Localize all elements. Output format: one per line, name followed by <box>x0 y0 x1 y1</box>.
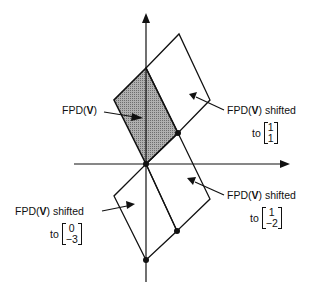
label-bold-v: V <box>252 189 259 201</box>
label-text: FPD( <box>227 104 252 116</box>
column-vector: 1 −2 <box>262 207 282 229</box>
label-fpd-shifted-1-1: FPD(V) shifted <box>227 104 296 116</box>
label-bold-v: V <box>40 205 47 217</box>
pointer-arrow-shift-1-neg2 <box>187 177 224 195</box>
x-axis-arrowhead <box>280 160 290 168</box>
pointer-arrow-shift-1-1 <box>189 92 224 110</box>
label-text: ) <box>94 104 98 116</box>
y-axis-arrowhead <box>142 13 150 23</box>
label-text: FPD( <box>62 104 87 116</box>
label-fpd-shifted-0-neg3: FPD(V) shifted <box>15 205 84 217</box>
to-text: to <box>50 228 59 240</box>
vector-entry: −2 <box>266 218 278 229</box>
vector-0-neg3: to 0 −3 <box>50 223 82 245</box>
fundamental-parallelepiped-diagram: FPD(V) FPD(V) shifted to 1 1 FPD(V) shif… <box>0 0 325 294</box>
label-fpd-shifted-1-neg2: FPD(V) shifted <box>227 189 296 201</box>
lattice-point <box>175 130 181 136</box>
label-text: shifted <box>262 189 296 201</box>
label-text: shifted <box>262 104 296 116</box>
label-text: FPD( <box>227 189 252 201</box>
to-text: to <box>252 127 261 139</box>
to-text: to <box>250 212 259 224</box>
label-text: FPD( <box>15 205 40 217</box>
vector-entry: 1 <box>268 133 274 144</box>
vector-entry: −3 <box>66 234 78 245</box>
label-bold-v: V <box>252 104 259 116</box>
label-bold-v: V <box>87 104 94 116</box>
column-vector: 0 −3 <box>62 223 82 245</box>
vector-1-1: to 1 1 <box>252 122 278 144</box>
vector-1-neg2: to 1 −2 <box>250 207 282 229</box>
diagram-canvas <box>0 0 325 294</box>
column-vector: 1 1 <box>264 122 278 144</box>
lattice-point <box>174 228 180 234</box>
lattice-point <box>143 257 149 263</box>
lattice-point <box>143 161 149 167</box>
label-fpd: FPD(V) <box>62 104 97 116</box>
label-text: shifted <box>50 205 84 217</box>
